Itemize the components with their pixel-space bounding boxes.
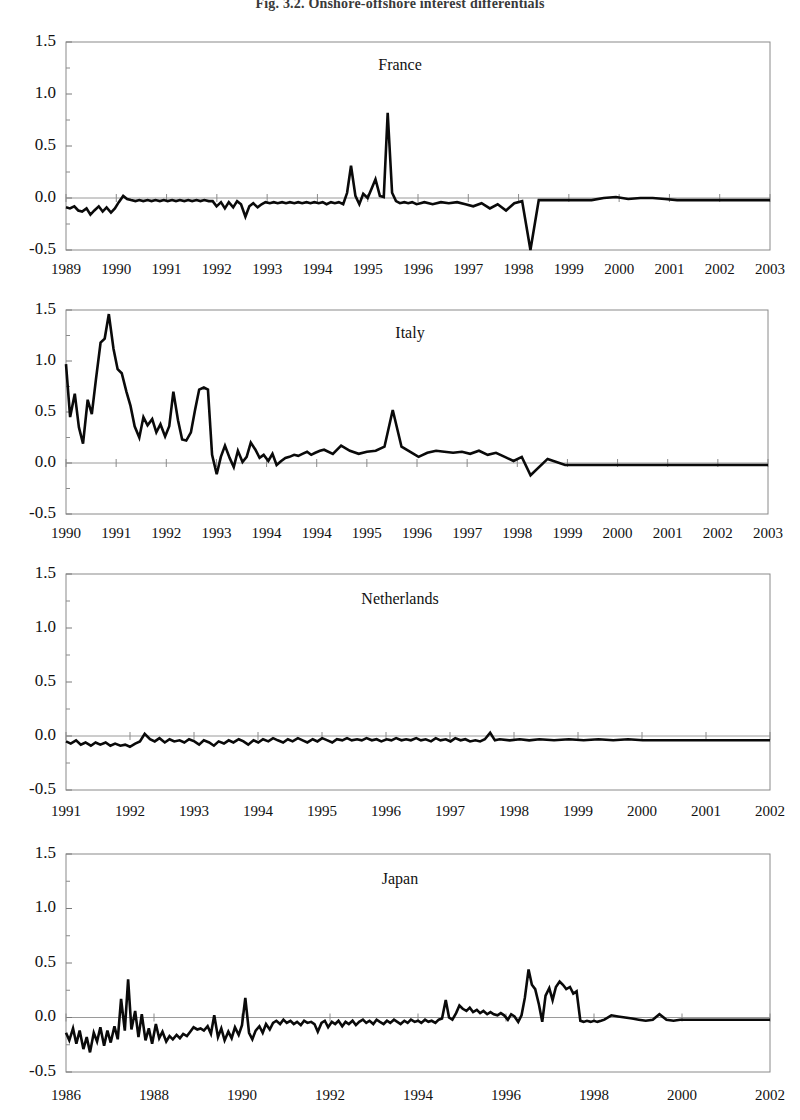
x-tick-label: 2000 [603, 525, 633, 541]
x-tick-label: 1993 [201, 525, 231, 541]
chart-svg-japan: 1.51.00.50.0-0.5198619881990199219941996… [0, 832, 800, 1120]
x-tick-label: 2002 [755, 1087, 785, 1103]
x-tick-label: 1998 [579, 1087, 609, 1103]
y-tick-label: -0.5 [29, 239, 56, 258]
panel-title: Italy [395, 324, 424, 342]
x-tick-label: 1999 [552, 525, 582, 541]
series-line [66, 733, 770, 747]
x-tick-label: 2001 [691, 803, 721, 819]
x-tick-label: 1991 [51, 803, 81, 819]
x-tick-label: 1998 [499, 803, 529, 819]
x-tick-label: 1992 [115, 803, 145, 819]
x-tick-label: 2000 [604, 261, 634, 277]
chart-panel-france: 1.51.00.50.0-0.5198919901991199219931994… [0, 22, 800, 294]
y-tick-label: 0.0 [35, 452, 56, 471]
y-tick-label: 0.5 [35, 401, 56, 420]
x-tick-label: 1996 [403, 261, 434, 277]
x-tick-label: 1995 [352, 525, 382, 541]
x-tick-label: 1990 [101, 261, 131, 277]
x-tick-label: 1997 [453, 261, 484, 277]
x-tick-label: 1999 [563, 803, 593, 819]
x-tick-label: 1999 [554, 261, 584, 277]
x-tick-label: 1995 [353, 261, 383, 277]
y-tick-label: 1.0 [35, 617, 56, 636]
x-tick-label: 1997 [452, 525, 483, 541]
panel-title: Japan [382, 870, 418, 888]
x-tick-label: 2000 [627, 803, 657, 819]
x-tick-label: 2000 [667, 1087, 697, 1103]
y-tick-label: 0.0 [35, 1006, 56, 1025]
x-tick-label: 1989 [51, 261, 81, 277]
figure-title: Fig. 3.2. Onshore-offshore interest diff… [0, 0, 800, 12]
x-tick-label: 1992 [151, 525, 181, 541]
x-tick-label: 2001 [654, 261, 684, 277]
y-tick-label: 1.5 [35, 299, 56, 318]
x-tick-label: 1992 [315, 1087, 345, 1103]
panel-title: France [378, 56, 422, 73]
x-tick-label: 2003 [755, 261, 785, 277]
x-tick-label: 1994 [302, 525, 333, 541]
x-tick-label: 1991 [152, 261, 182, 277]
chart-panel-japan: 1.51.00.50.0-0.5198619881990199219941996… [0, 832, 800, 1120]
x-tick-label: 1998 [504, 261, 534, 277]
x-tick-label: 1990 [227, 1087, 257, 1103]
x-tick-label: 1998 [502, 525, 532, 541]
x-tick-label: 2002 [705, 261, 735, 277]
x-tick-label: 1996 [491, 1087, 522, 1103]
y-tick-label: -0.5 [29, 503, 56, 522]
x-tick-label: 2002 [703, 525, 733, 541]
y-tick-label: 1.0 [35, 83, 56, 102]
chart-svg-netherlands: 1.51.00.50.0-0.5199119921993199419951996… [0, 552, 800, 834]
chart-panel-italy: 1.51.00.50.0-0.5199019911992199319941994… [0, 292, 800, 554]
y-tick-label: 1.5 [35, 563, 56, 582]
y-tick-label: 0.5 [35, 952, 56, 971]
y-tick-label: 0.0 [35, 725, 56, 744]
y-tick-label: -0.5 [29, 1061, 56, 1080]
x-tick-label: 1994 [403, 1087, 434, 1103]
series-line [66, 970, 770, 1053]
x-tick-label: 2003 [753, 525, 783, 541]
x-tick-label: 1996 [402, 525, 433, 541]
panel-title: Netherlands [361, 590, 438, 607]
y-tick-label: 1.0 [35, 350, 56, 369]
x-tick-label: 1994 [252, 525, 283, 541]
x-tick-label: 1993 [252, 261, 282, 277]
x-tick-label: 2001 [653, 525, 683, 541]
x-tick-label: 2002 [755, 803, 785, 819]
y-tick-label: 1.0 [35, 897, 56, 916]
chart-svg-italy: 1.51.00.50.0-0.5199019911992199319941994… [0, 292, 800, 554]
x-tick-label: 1995 [307, 803, 337, 819]
y-tick-label: 1.5 [35, 843, 56, 862]
y-tick-label: 0.5 [35, 671, 56, 690]
y-tick-label: 1.5 [35, 31, 56, 50]
chart-svg-france: 1.51.00.50.0-0.5198919901991199219931994… [0, 22, 800, 294]
y-tick-label: 0.0 [35, 187, 56, 206]
x-tick-label: 1986 [51, 1087, 82, 1103]
y-tick-label: -0.5 [29, 779, 56, 798]
y-tick-label: 0.5 [35, 135, 56, 154]
x-tick-label: 1996 [371, 803, 402, 819]
x-tick-label: 1992 [202, 261, 232, 277]
x-tick-label: 1997 [435, 803, 466, 819]
x-tick-label: 1991 [101, 525, 131, 541]
x-tick-label: 1994 [302, 261, 333, 277]
x-tick-label: 1993 [179, 803, 209, 819]
x-tick-label: 1990 [51, 525, 81, 541]
chart-panel-netherlands: 1.51.00.50.0-0.5199119921993199419951996… [0, 552, 800, 834]
series-line [66, 113, 770, 250]
x-tick-label: 1988 [139, 1087, 169, 1103]
x-tick-label: 1994 [243, 803, 274, 819]
